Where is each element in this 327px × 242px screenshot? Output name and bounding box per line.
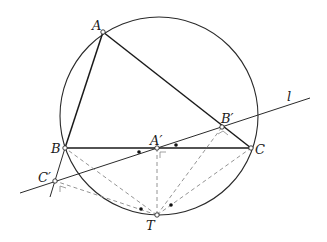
label-T: T bbox=[146, 218, 156, 233]
label-B-prime: B′ bbox=[220, 111, 234, 126]
angle-dot bbox=[174, 143, 178, 147]
point-B bbox=[63, 146, 67, 150]
label-C: C bbox=[255, 142, 265, 157]
angle-dot bbox=[137, 150, 141, 154]
right-angle-B1 bbox=[218, 131, 228, 135]
right-angle-C1 bbox=[60, 186, 66, 192]
label-C-prime: C′ bbox=[38, 170, 51, 185]
angle-dot bbox=[169, 203, 173, 207]
side-AC bbox=[103, 32, 251, 148]
label-A-prime: A′ bbox=[149, 133, 162, 148]
angle-dot bbox=[139, 207, 143, 211]
simson-line-l bbox=[20, 98, 310, 193]
point-T bbox=[155, 213, 159, 217]
label-B: B bbox=[50, 141, 61, 156]
label-line-l: l bbox=[287, 89, 291, 104]
side-AB bbox=[65, 32, 103, 148]
point-C bbox=[249, 146, 253, 150]
label-A: A bbox=[91, 18, 101, 33]
geometry-diagram: A B C A′ B′ C′ T l bbox=[0, 0, 327, 242]
dashed-T-B1 bbox=[157, 127, 222, 215]
dashed-T-B bbox=[65, 148, 157, 215]
diagram-canvas: A B C A′ B′ C′ T l bbox=[0, 0, 327, 242]
point-A bbox=[101, 30, 105, 34]
point-C-prime bbox=[53, 179, 57, 183]
right-angle-A1 bbox=[160, 152, 166, 158]
